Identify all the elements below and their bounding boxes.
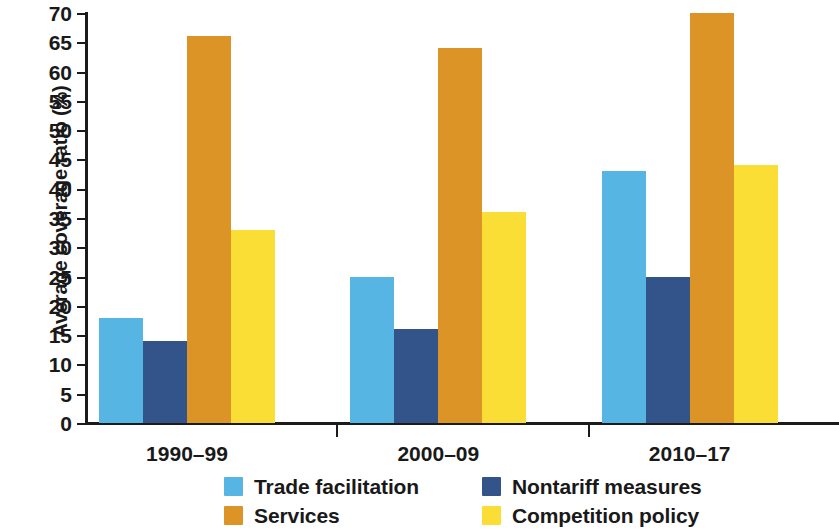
y-tick-label: 25 — [49, 266, 72, 287]
legend-swatch-icon — [224, 506, 243, 525]
bar — [602, 171, 646, 423]
bar — [734, 165, 778, 423]
y-tick-mark — [77, 364, 86, 366]
y-tick-label: 35 — [49, 208, 72, 229]
y-tick-label: 40 — [49, 178, 72, 199]
bar-chart: Average coverage ratio (%) 0510152025303… — [0, 0, 839, 529]
y-tick-label: 20 — [49, 295, 72, 316]
y-tick-label: 45 — [49, 149, 72, 170]
y-tick-label: 10 — [49, 354, 72, 375]
y-tick-label: 50 — [49, 120, 72, 141]
legend-label: Nontariff measures — [512, 475, 702, 499]
bar — [646, 277, 690, 423]
y-tick-mark — [77, 218, 86, 220]
y-tick-mark — [77, 247, 86, 249]
bar — [394, 329, 438, 423]
bar — [187, 36, 231, 423]
y-tick-label: 55 — [49, 90, 72, 111]
bar — [99, 318, 143, 423]
y-tick-label: 30 — [49, 237, 72, 258]
legend-swatch-icon — [224, 477, 243, 496]
y-tick-mark — [77, 13, 86, 15]
y-tick-mark — [77, 277, 86, 279]
bar — [143, 341, 187, 423]
bar — [350, 277, 394, 423]
x-axis-label: 2000–09 — [397, 442, 479, 466]
y-tick-mark — [77, 189, 86, 191]
x-axis-label: 2010–17 — [649, 442, 731, 466]
y-tick-mark — [77, 335, 86, 337]
x-tick-mark — [588, 424, 590, 437]
legend-label: Competition policy — [512, 504, 699, 528]
legend-swatch-icon — [482, 506, 501, 525]
y-tick-label: 60 — [49, 61, 72, 82]
legend-item: Competition policy — [482, 504, 824, 528]
x-tick-mark — [336, 424, 338, 437]
legend-item: Trade facilitation — [224, 475, 482, 499]
chart-legend: Trade facilitationNontariff measuresServ… — [224, 472, 824, 529]
y-tick-mark — [77, 394, 86, 396]
legend-label: Services — [254, 504, 340, 528]
y-tick-mark — [77, 423, 86, 425]
legend-item: Services — [224, 504, 482, 528]
x-axis-label: 1990–99 — [146, 442, 228, 466]
y-tick-label: 0 — [60, 413, 72, 434]
legend-label: Trade facilitation — [254, 475, 419, 499]
bar — [231, 230, 275, 423]
y-tick-mark — [77, 42, 86, 44]
plot-area: 0510152025303540455055606570 1990–992000… — [85, 13, 839, 423]
legend-item: Nontariff measures — [482, 475, 824, 499]
y-tick-mark — [77, 130, 86, 132]
y-tick-label: 5 — [60, 383, 72, 404]
y-tick-label: 65 — [49, 32, 72, 53]
legend-swatch-icon — [482, 477, 501, 496]
y-tick-label: 15 — [49, 325, 72, 346]
bar — [482, 212, 526, 423]
bar — [690, 13, 734, 423]
bar — [438, 48, 482, 423]
y-tick-mark — [77, 159, 86, 161]
y-tick-label: 70 — [49, 3, 72, 24]
y-tick-mark — [77, 306, 86, 308]
y-tick-mark — [77, 101, 86, 103]
y-tick-mark — [77, 72, 86, 74]
